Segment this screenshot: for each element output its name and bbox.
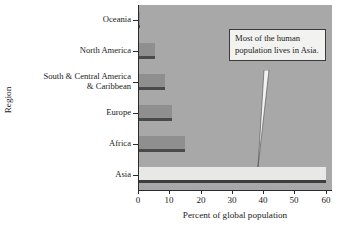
y-axis-line (138, 5, 139, 190)
x-tick (294, 190, 295, 194)
x-tick-label: 20 (189, 195, 213, 206)
callout-pointer-icon (230, 70, 270, 170)
y-axis-label-oceania: Oceania (103, 15, 131, 25)
bar-africa (138, 136, 185, 152)
y-tick (133, 175, 138, 176)
y-tick (133, 82, 138, 83)
x-tick-label: 10 (157, 195, 181, 206)
y-axis-title: Region (3, 75, 13, 125)
y-axis-label-africa: Africa (109, 139, 131, 149)
x-tick (201, 190, 202, 194)
x-tick (326, 190, 327, 194)
y-axis-label-south-central-america: South & Central America& Caribbean (43, 72, 131, 91)
x-tick (138, 190, 139, 194)
x-tick-label: 50 (282, 195, 306, 206)
y-axis-label-north-america: North America (80, 46, 131, 56)
y-axis-label-europe: Europe (106, 108, 131, 118)
x-tick (169, 190, 170, 194)
bar-south-central-america-caribbean (138, 74, 165, 90)
x-tick (232, 190, 233, 194)
bar-north-america (138, 43, 155, 59)
callout-annotation: Most of the human population lives in As… (229, 29, 326, 61)
bar-europe (138, 105, 172, 121)
bar-chart-figure: 0102030405060 OceaniaNorth AmericaSouth … (0, 0, 340, 231)
x-tick-label: 60 (314, 195, 338, 206)
x-tick-label: 0 (126, 195, 150, 206)
y-tick (133, 51, 138, 52)
y-tick (133, 144, 138, 145)
x-tick-label: 40 (251, 195, 275, 206)
x-axis-line (138, 190, 332, 191)
x-axis-title: Percent of global population (138, 210, 332, 220)
y-axis-label-asia: Asia (115, 170, 131, 180)
y-tick (133, 113, 138, 114)
x-tick (263, 190, 264, 194)
y-tick (133, 20, 138, 21)
x-tick-label: 30 (220, 195, 244, 206)
